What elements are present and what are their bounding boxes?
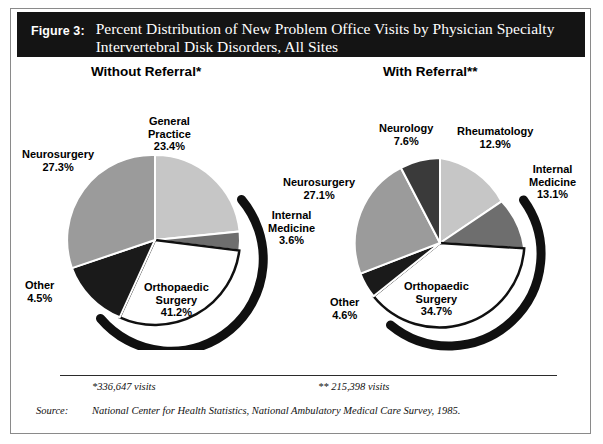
label-orthopaedic-surgery: Orthopaedic Surgery 41.2%: [144, 281, 209, 319]
label-internal-medicine-pct: 3.6%: [268, 234, 315, 247]
label-rheumatology: Rheumatology 12.9%: [457, 125, 533, 150]
label-orthopaedic-surgery-name2: Surgery: [156, 294, 198, 306]
label-other: Other 4.6%: [330, 296, 359, 321]
label-orthopaedic-surgery-name1: Orthopaedic: [144, 281, 209, 293]
label-other-pct: 4.6%: [330, 309, 359, 322]
panel-title-without-referral: Without Referral*: [91, 64, 201, 79]
label-rheumatology-name: Rheumatology: [457, 125, 533, 137]
label-neurosurgery-pct: 27.3%: [22, 161, 94, 174]
footnote-left: *336,647 visits: [92, 381, 156, 392]
label-internal-medicine-name2: Medicine: [529, 176, 576, 188]
label-internal-medicine-name1: Internal: [533, 163, 573, 175]
source-label: Source:: [36, 405, 68, 416]
footnote-right: ** 215,398 visits: [318, 381, 389, 392]
figure-title-line-1: Percent Distribution of New Problem Offi…: [96, 20, 555, 38]
figure-number: Figure 3:: [17, 12, 85, 38]
label-other: Other 4.5%: [25, 279, 54, 304]
label-internal-medicine: Internal Medicine 13.1%: [529, 163, 576, 201]
label-other-pct: 4.5%: [25, 292, 54, 305]
figure-title: Percent Distribution of New Problem Offi…: [85, 12, 555, 55]
label-neurology: Neurology 7.6%: [379, 122, 433, 147]
label-internal-medicine: Internal Medicine 3.6%: [268, 209, 315, 247]
label-neurosurgery: Neurosurgery 27.3%: [22, 148, 94, 173]
label-internal-medicine-pct: 13.1%: [529, 188, 576, 201]
label-general-practice-name1: General: [149, 115, 190, 127]
figure-title-line-2: Intervertebral Disk Disorders, All Sites: [96, 38, 555, 56]
label-internal-medicine-name2: Medicine: [268, 222, 315, 234]
label-general-practice: General Practice 23.4%: [148, 115, 191, 153]
source-text: National Center for Health Statistics, N…: [92, 405, 460, 416]
label-neurology-pct: 7.6%: [379, 135, 433, 148]
footnote-divider: [60, 375, 557, 376]
label-general-practice-pct: 23.4%: [148, 140, 191, 153]
pie-chart-with-referral: [332, 145, 562, 360]
label-general-practice-name2: Practice: [148, 128, 191, 140]
label-orthopaedic-surgery-name2: Surgery: [416, 293, 458, 305]
label-neurology-name: Neurology: [379, 122, 433, 134]
label-other-name: Other: [25, 279, 54, 291]
label-neurosurgery-name: Neurosurgery: [283, 176, 355, 188]
label-orthopaedic-surgery-name1: Orthopaedic: [404, 280, 469, 292]
label-neurosurgery-name: Neurosurgery: [22, 148, 94, 160]
label-orthopaedic-surgery-pct: 34.7%: [404, 305, 469, 318]
label-other-name: Other: [330, 296, 359, 308]
figure-header-band: Figure 3: Percent Distribution of New Pr…: [17, 12, 585, 57]
label-neurosurgery-pct: 27.1%: [283, 189, 355, 202]
label-rheumatology-pct: 12.9%: [457, 138, 533, 151]
label-neurosurgery: Neurosurgery 27.1%: [283, 176, 355, 201]
slice-general-practice: [155, 155, 240, 240]
label-internal-medicine-name1: Internal: [272, 209, 312, 221]
panel-title-with-referral: With Referral**: [383, 64, 477, 79]
label-orthopaedic-surgery-pct: 41.2%: [144, 306, 209, 319]
label-orthopaedic-surgery: Orthopaedic Surgery 34.7%: [404, 280, 469, 318]
